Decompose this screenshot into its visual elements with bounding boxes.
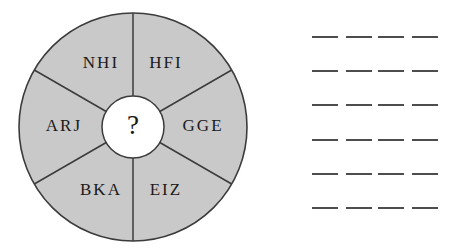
sector-label-bottom-right: EIZ: [150, 180, 183, 199]
answer-row: [308, 64, 442, 98]
answer-blank: [412, 70, 438, 72]
answer-blank: [346, 173, 372, 175]
answer-blank: [346, 36, 372, 38]
answer-blank: [412, 207, 438, 209]
sector-label-right: GGE: [182, 116, 223, 135]
letter-wheel-svg: NHI HFI ARJ GGE BKA EIZ ?: [0, 0, 280, 250]
answer-blank: [312, 70, 338, 72]
answer-row: [308, 98, 442, 132]
answer-blank: [346, 70, 372, 72]
answer-blank: [312, 139, 338, 141]
answer-blank: [312, 173, 338, 175]
answer-blank: [412, 173, 438, 175]
answer-blank: [312, 104, 338, 106]
answer-row: [308, 201, 442, 235]
answer-blank: [346, 104, 372, 106]
answer-blank: [378, 207, 404, 209]
answer-row: [308, 133, 442, 167]
answer-blank: [412, 36, 438, 38]
answer-blank: [378, 173, 404, 175]
sector-label-left: ARJ: [46, 116, 83, 135]
hub-question-mark: ?: [127, 110, 139, 140]
answer-blank: [346, 139, 372, 141]
answer-blank: [412, 104, 438, 106]
answer-blank: [378, 70, 404, 72]
answer-blank: [378, 139, 404, 141]
answer-blank: [412, 139, 438, 141]
sector-label-top-left: NHI: [83, 53, 120, 72]
answer-row: [308, 167, 442, 201]
sector-label-top-right: HFI: [149, 53, 183, 72]
letter-wheel-figure: NHI HFI ARJ GGE BKA EIZ ?: [0, 0, 280, 250]
answer-blank: [312, 207, 338, 209]
answer-row: [308, 30, 442, 64]
puzzle-page: NHI HFI ARJ GGE BKA EIZ ?: [0, 0, 450, 250]
answer-blank: [312, 36, 338, 38]
answer-blanks-grid: [308, 30, 442, 220]
answer-blank: [378, 104, 404, 106]
answer-blank: [378, 36, 404, 38]
sector-label-bottom-left: BKA: [80, 180, 122, 199]
answer-blank: [346, 207, 372, 209]
